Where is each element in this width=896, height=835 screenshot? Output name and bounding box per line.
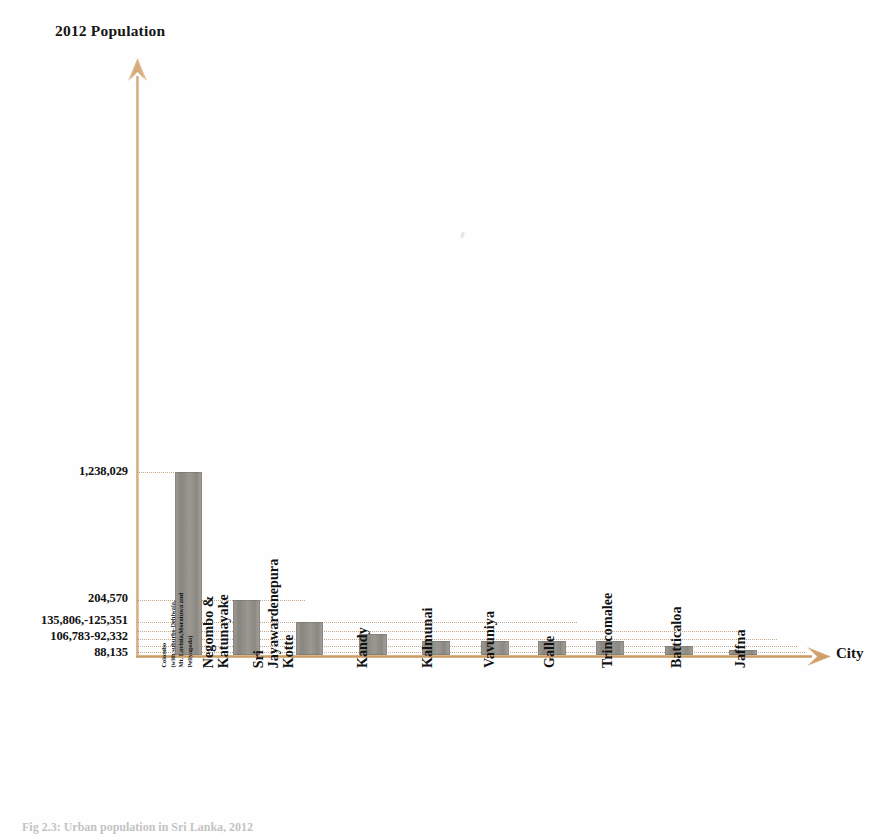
x-label-kotte-line-1: Sri — [251, 558, 266, 668]
x-label-sri-jayawardenepura-kotte: Sri Jayawardenepura Kotte — [251, 558, 296, 668]
x-label-kandy: Kandy — [355, 627, 370, 668]
x-label-galle: Galle — [542, 636, 557, 668]
x-label-vavuniya-line-1: Vavuniya — [482, 611, 497, 668]
x-label-negombo-line-2: Katunayake — [216, 594, 231, 668]
y-axis-line — [136, 76, 139, 656]
x-axis-arrow-icon — [805, 645, 831, 668]
x-label-negombo-line-1: Negombo & — [201, 594, 216, 668]
y-tick-label-1238029: 1,238,029 — [0, 464, 128, 479]
y-tick-label-135806-125351: 135,806,-125,351 — [0, 613, 128, 628]
x-label-vavuniya: Vavuniya — [482, 611, 497, 668]
x-label-kalmunai: Kalmunai — [420, 607, 435, 668]
x-label-colombo-line-3: Mt. Lavinia,Moratuwa and — [178, 593, 187, 668]
x-label-colombo-line-2: (with suburbs-Dehiwala, — [169, 593, 178, 668]
x-label-kandy-line-1: Kandy — [355, 627, 370, 668]
x-axis-title: City — [836, 645, 864, 662]
x-label-batticaloa-line-1: Batticaloa — [669, 606, 684, 668]
x-label-colombo-line-4: Peliyagoda) — [186, 593, 195, 668]
x-label-colombo: Colombo (with suburbs-Dehiwala, Mt. Lavi… — [160, 593, 195, 668]
x-label-kotte-line-2: Jayawardenepura — [266, 558, 281, 668]
x-label-batticaloa: Batticaloa — [669, 606, 684, 668]
y-tick-label-204570: 204,570 — [0, 591, 128, 606]
x-label-negombo: Negombo & Katunayake — [201, 594, 231, 668]
x-label-kotte-line-3: Kotte — [281, 558, 296, 668]
x-label-jaffna: Jaffna — [733, 629, 748, 668]
bar-sri-jayawardenepura-kotte[interactable] — [296, 622, 323, 655]
x-label-galle-line-1: Galle — [542, 636, 557, 668]
x-label-jaffna-line-1: Jaffna — [733, 629, 748, 668]
x-label-colombo-line-1: Colombo — [160, 593, 169, 668]
x-label-kalmunai-line-1: Kalmunai — [420, 607, 435, 668]
x-label-trincomalee: Trincomalee — [600, 593, 615, 668]
x-axis-line — [136, 655, 812, 658]
scan-artifact — [460, 232, 465, 239]
y-tick-label-88135: 88,135 — [0, 645, 128, 660]
figure-caption: Fig 2.3: Urban population in Sri Lanka, … — [22, 820, 253, 835]
x-label-trincomalee-line-1: Trincomalee — [600, 593, 615, 668]
y-axis-arrow-icon — [126, 58, 149, 82]
y-tick-label-106783-92332: 106,783-92,332 — [0, 629, 128, 644]
page-title: 2012 Population — [55, 22, 165, 40]
